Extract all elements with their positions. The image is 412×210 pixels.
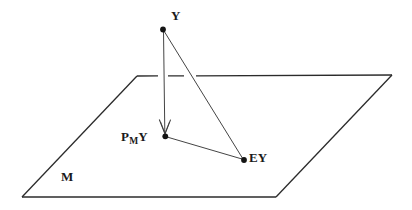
label-plane-m: M [61, 170, 73, 183]
label-pmy-subscript: M [129, 136, 138, 146]
label-pmy-vector: Y [138, 129, 148, 144]
point-y [160, 27, 166, 33]
plane-top-edge-segment-right [196, 75, 392, 76]
point-ey [241, 157, 247, 163]
plane-left-edge [22, 76, 137, 197]
label-point-y: Y [171, 9, 181, 22]
plane-m-outline [22, 75, 392, 197]
diagram-canvas: Y EY M PMY [0, 0, 412, 210]
projection-arrow-shaft [164, 31, 165, 132]
label-pmy-operator: P [121, 129, 129, 144]
point-pmy [162, 133, 168, 139]
label-point-ey: EY [249, 151, 267, 164]
label-point-pmy: PMY [121, 130, 148, 144]
segment-pmy-to-ey [167, 137, 242, 159]
plane-right-edge [276, 75, 392, 197]
